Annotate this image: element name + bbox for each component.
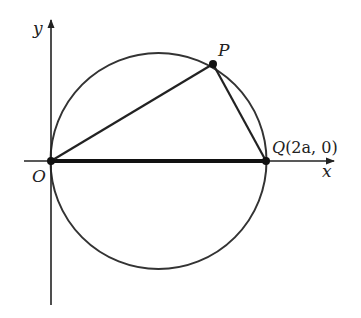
point-Q-letter: Q (272, 138, 285, 157)
point-P (209, 60, 217, 68)
point-Q (262, 157, 270, 165)
segment-PQ (213, 64, 266, 161)
point-Q-label: Q(2a, 0) (272, 138, 338, 157)
point-P-label: P (217, 40, 230, 60)
y-axis-label: y (32, 18, 43, 38)
segment-OP (51, 64, 213, 161)
x-axis-label: x (322, 161, 332, 181)
geometry-diagram: y x O P Q(2a, 0) (0, 0, 361, 318)
point-Q-coords: (2a, 0) (285, 138, 338, 157)
point-O-label: O (32, 166, 46, 186)
point-O (47, 157, 55, 165)
